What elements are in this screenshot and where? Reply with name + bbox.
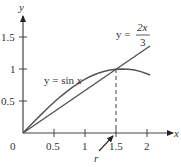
x-tick-label: 0.5 bbox=[46, 140, 60, 152]
y-tick-label: 1.5 bbox=[1, 31, 15, 43]
origin-label: 0 bbox=[10, 140, 16, 152]
sin-curve bbox=[23, 69, 150, 133]
x-tick-label: 1 bbox=[82, 140, 88, 152]
x-tick-label: 2 bbox=[144, 140, 150, 152]
y-tick-label: 0.5 bbox=[1, 95, 15, 107]
x-tick-label: 1.5 bbox=[109, 140, 123, 152]
line-label-prefix: y = bbox=[116, 28, 130, 40]
line-2x-over-3 bbox=[23, 46, 150, 133]
x-axis-label: x bbox=[173, 127, 179, 139]
line-label-numerator: 2x bbox=[137, 21, 148, 33]
chart: y x 0 0.5 1 1.5 2 0.5 1 1.5 y = sin x y … bbox=[0, 0, 181, 167]
root-label: r bbox=[94, 152, 99, 164]
y-tick-label: 1 bbox=[10, 63, 16, 75]
sin-curve-label: y = sin x bbox=[44, 74, 82, 86]
y-axis-label: y bbox=[18, 1, 24, 13]
line-label-denominator: 3 bbox=[140, 36, 146, 48]
